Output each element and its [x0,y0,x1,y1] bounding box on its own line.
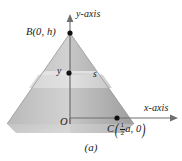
point-marker-C [114,115,119,120]
point-marker-cross-section [66,70,71,75]
point-marker-B [67,30,72,35]
cross-section-radius-label: y [57,67,61,77]
fraction-numerator: 1 [120,122,125,129]
slant-side-label: s [93,70,97,80]
point-label-c-open-paren: ( [115,122,119,137]
origin-label: O [60,117,68,128]
figure-caption: (a) [0,141,182,153]
pyramid-coordinate-figure: y-axis x-axis B(0, h) O C(12a, 0) y s (a… [0,0,182,161]
point-label-b: B(0, h) [26,27,56,38]
point-label-c-close-paren: ) [142,122,146,137]
y-axis-label: y-axis [76,9,100,19]
x-axis-arrowhead-icon [170,115,178,122]
point-label-c-prefix: C [107,124,114,135]
x-axis-label: x-axis [144,103,168,113]
fraction-denominator: 2 [120,130,125,137]
pyramid-diagram-svg [0,0,182,161]
point-label-c-coords: a, 0 [125,124,141,135]
point-label-c: C(12a, 0) [107,122,147,137]
fraction-one-half: 12 [120,122,125,137]
y-axis-arrowhead-icon [67,14,74,22]
